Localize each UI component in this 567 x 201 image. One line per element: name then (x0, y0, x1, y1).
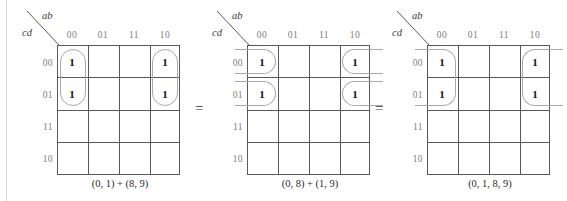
cell-one: 1 (150, 88, 180, 100)
column-header-3: 10 (150, 30, 180, 40)
grid-hline (427, 77, 550, 78)
cell-one: 1 (427, 56, 457, 68)
row-header-0: 00 (33, 58, 53, 68)
cell-one: 1 (247, 88, 277, 100)
column-header-0: 00 (427, 30, 457, 40)
axis-label-ab: ab (232, 10, 243, 21)
cell-one: 1 (57, 88, 87, 100)
axis-label-cd: cd (212, 27, 222, 38)
grid-hline (427, 142, 550, 143)
cell-one: 1 (57, 56, 87, 68)
grid-hline (57, 142, 180, 143)
row-header-1: 01 (223, 90, 243, 100)
kmap-panel-3: ab cd 00 01 11 10 00 01 11 10 1 1 1 1 (0… (370, 0, 560, 201)
cell-one: 1 (520, 88, 550, 100)
grid-hline (57, 110, 180, 111)
column-header-0: 00 (57, 30, 87, 40)
row-header-0: 00 (403, 58, 423, 68)
column-header-2: 11 (119, 30, 149, 40)
column-header-1: 01 (88, 30, 118, 40)
row-header-0: 00 (223, 58, 243, 68)
cell-one: 1 (150, 56, 180, 68)
kmap-panel-2: ab cd 00 01 11 10 00 01 11 10 1 1 1 1 (0… (190, 0, 380, 201)
row-header-2: 11 (403, 122, 423, 132)
column-header-3: 10 (340, 30, 370, 40)
column-header-2: 11 (309, 30, 339, 40)
row-header-3: 10 (223, 154, 243, 164)
row-header-3: 10 (33, 154, 53, 164)
row-header-3: 10 (403, 154, 423, 164)
cell-one: 1 (427, 88, 457, 100)
row-header-2: 11 (223, 122, 243, 132)
axis-label-ab: ab (412, 10, 423, 21)
column-header-0: 00 (247, 30, 277, 40)
grid-hline (247, 110, 370, 111)
column-header-1: 01 (278, 30, 308, 40)
kmap-caption: (0, 1, 8, 9) (400, 178, 567, 189)
kmap-panel-1: ab cd 00 01 11 10 00 01 11 10 1 1 1 1 (0… (0, 0, 190, 201)
row-header-1: 01 (403, 90, 423, 100)
axis-label-ab: ab (42, 10, 53, 21)
cell-one: 1 (340, 56, 370, 68)
row-header-1: 01 (33, 90, 53, 100)
column-header-1: 01 (458, 30, 488, 40)
cell-one: 1 (340, 88, 370, 100)
axis-label-cd: cd (392, 27, 402, 38)
axis-label-cd: cd (22, 27, 32, 38)
row-header-2: 11 (33, 122, 53, 132)
grid-hline (427, 110, 550, 111)
grid-hline (247, 77, 370, 78)
grid-hline (247, 142, 370, 143)
column-header-2: 11 (489, 30, 519, 40)
kmap-caption: (0, 1) + (8, 9) (30, 178, 210, 189)
column-header-3: 10 (520, 30, 550, 40)
cell-one: 1 (247, 56, 277, 68)
grid-hline (57, 77, 180, 78)
cell-one: 1 (520, 56, 550, 68)
